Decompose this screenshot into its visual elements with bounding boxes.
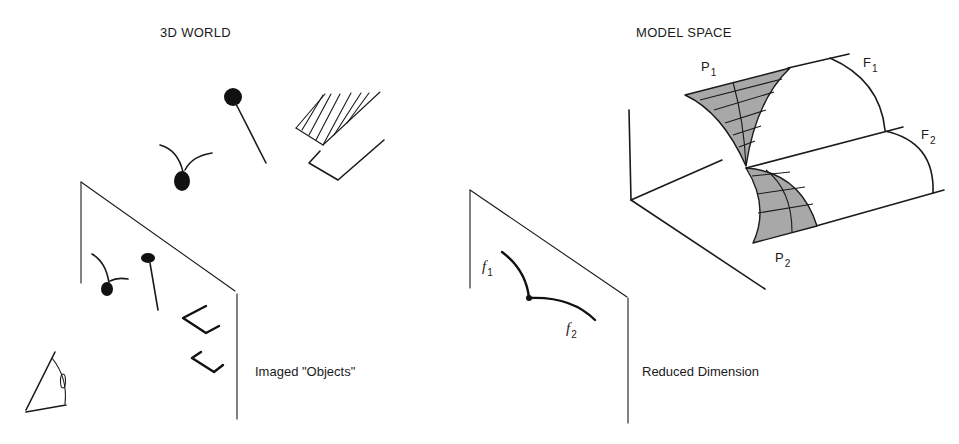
panel-title-model-space: MODEL SPACE	[636, 25, 732, 40]
label-F2-base: F	[921, 127, 929, 142]
label-f1: f1	[482, 258, 493, 275]
image-plane-left	[81, 182, 237, 419]
hatched-wedge-object	[296, 92, 380, 145]
label-P1: P1	[701, 59, 716, 74]
caption-reduced-dimension: Reduced Dimension	[642, 364, 759, 379]
label-F2: F2	[921, 127, 936, 142]
image-plane-right	[470, 190, 628, 423]
label-P2-sub: 2	[785, 258, 791, 269]
label-P2-base: P	[775, 250, 784, 265]
pin-object	[224, 88, 266, 163]
imaged-bracket-1	[183, 306, 219, 333]
patch-P2	[746, 168, 817, 243]
label-f2-base: f	[566, 320, 570, 336]
panel-title-3d-world: 3D WORLD	[160, 25, 231, 40]
patch-P1	[685, 68, 790, 166]
surface-F1	[746, 54, 903, 168]
label-P1-sub: 1	[711, 67, 717, 78]
label-F1-base: F	[863, 55, 871, 70]
label-f2-sub: 2	[571, 329, 577, 340]
imaged-bracket-2	[192, 352, 223, 372]
projected-curves	[502, 252, 595, 320]
label-f1-sub: 1	[487, 267, 493, 278]
diagram-canvas	[0, 0, 959, 444]
imaged-pin	[141, 253, 158, 310]
seedling-object	[160, 145, 212, 191]
label-f1-base: f	[482, 258, 486, 274]
imaged-seedling	[92, 254, 128, 296]
caption-imaged-objects: Imaged "Objects"	[255, 364, 355, 379]
label-P2: P2	[775, 250, 790, 265]
label-F1: F1	[863, 55, 878, 70]
label-f2: f2	[566, 320, 577, 337]
label-F2-sub: 2	[930, 135, 936, 146]
bracket-object	[309, 140, 384, 180]
label-F1-sub: 1	[872, 63, 878, 74]
eye-icon	[26, 352, 66, 412]
label-P1-base: P	[701, 59, 710, 74]
